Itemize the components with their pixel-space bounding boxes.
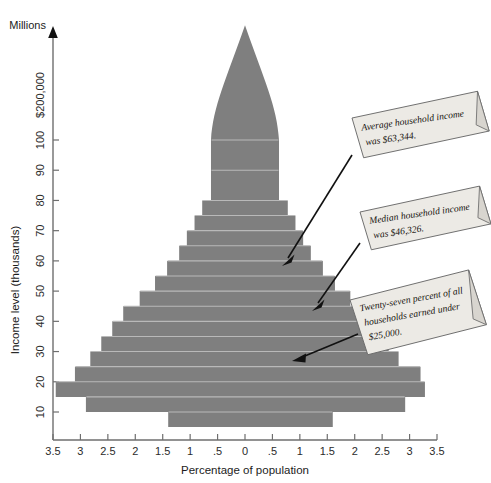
leader-line-average-income: [288, 155, 352, 258]
x-tick-label: 3: [77, 445, 83, 457]
x-tick-label: .5: [268, 445, 277, 457]
income-pyramid-chart: Millions 100908070605040302010 Income le…: [0, 0, 491, 483]
callout-under-25k: Twenty-seven percent of all households e…: [348, 269, 487, 357]
x-tick-label: 3.5: [429, 445, 444, 457]
y-tick-label: 20: [34, 376, 46, 388]
y-axis-ticks: 100908070605040302010: [34, 131, 59, 418]
x-tick-label: 1: [297, 445, 303, 457]
x-tick-label: 1.5: [320, 445, 335, 457]
y-tick-label: 50: [34, 285, 46, 297]
y-tick-label: 70: [34, 225, 46, 237]
y-tick-label: 100: [34, 131, 46, 149]
y-tick-label: 80: [34, 194, 46, 206]
y-axis-group: Millions 100908070605040302010 Income le…: [9, 19, 59, 440]
y-tick-label: 10: [34, 406, 46, 418]
x-axis-title: Percentage of population: [181, 464, 309, 476]
y-axis-top-label: $200,000: [34, 72, 46, 118]
y-axis-unit-label: Millions: [9, 19, 46, 31]
callout-median-income: Median household income was $46,326.: [359, 185, 491, 250]
x-tick-label: 2: [352, 445, 358, 457]
y-tick-label: 40: [34, 315, 46, 327]
x-tick-label: 0: [242, 445, 248, 457]
x-axis-group: 3.532.521.51.50.511.522.533.5 Percentage…: [45, 434, 444, 476]
y-tick-label: 60: [34, 255, 46, 267]
x-tick-label: 3: [407, 445, 413, 457]
x-tick-label: 3.5: [45, 445, 60, 457]
x-tick-label: 2.5: [374, 445, 389, 457]
callout-average-income: Average household income was $63,344.: [351, 90, 491, 158]
x-tick-label: 1: [187, 445, 193, 457]
y-axis-arrow-icon: [48, 26, 58, 38]
x-tick-label: 2.5: [100, 445, 115, 457]
y-tick-label: 30: [34, 345, 46, 357]
x-axis-ticks: 3.532.521.51.50.511.522.533.5: [45, 434, 444, 457]
y-axis-title: Income level (thousands): [9, 226, 21, 355]
chart-canvas: Millions 100908070605040302010 Income le…: [0, 0, 491, 483]
y-tick-label: 90: [34, 164, 46, 176]
x-tick-label: .5: [213, 445, 222, 457]
x-tick-label: 1.5: [155, 445, 170, 457]
x-tick-label: 2: [132, 445, 138, 457]
